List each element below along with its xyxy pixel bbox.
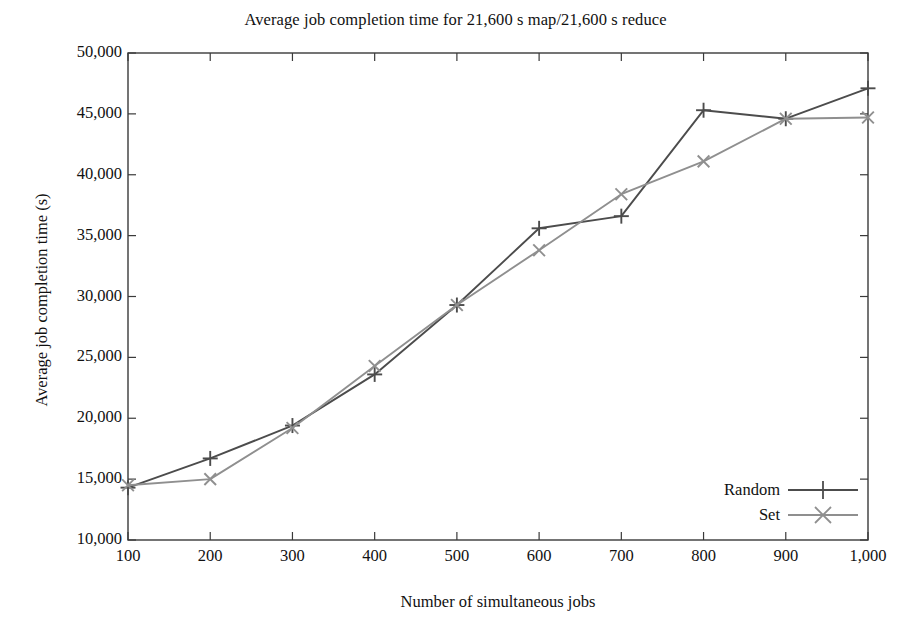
legend-label-set: Set	[759, 505, 780, 525]
x-tick-label: 500	[417, 546, 497, 566]
x-tick-label: 300	[252, 546, 332, 566]
x-tick-label: 900	[746, 546, 826, 566]
x-tick-label: 400	[335, 546, 415, 566]
x-tick-label: 1,000	[828, 546, 908, 566]
x-tick-label: 600	[499, 546, 579, 566]
x-tick-label: 100	[88, 546, 168, 566]
legend-marker-cross-icon	[786, 505, 860, 525]
legend-item-set: Set	[690, 503, 860, 527]
chart-legend: Random Set	[690, 478, 860, 530]
legend-item-random: Random	[690, 478, 860, 502]
x-tick-label: 200	[170, 546, 250, 566]
x-tick-label: 700	[581, 546, 661, 566]
x-tick-labels: 1002003004005006007008009001,000	[0, 0, 911, 637]
legend-label-random: Random	[724, 480, 780, 500]
legend-marker-plus-icon	[786, 480, 860, 500]
x-tick-label: 800	[664, 546, 744, 566]
chart-figure: Average job completion time for 21,600 s…	[0, 0, 911, 637]
